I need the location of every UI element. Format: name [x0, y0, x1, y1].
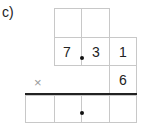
answer-cell-1[interactable] — [25, 95, 55, 123]
problem-label: c) — [2, 4, 14, 20]
multiply-operator: × — [34, 75, 42, 90]
carry-cell-1[interactable] — [54, 8, 82, 38]
answer-cell-2[interactable] — [54, 95, 82, 123]
answer-cell-4[interactable] — [109, 95, 137, 123]
multiplicand-digit-3: 1 — [116, 44, 130, 60]
multiplicand-digit-2: 3 — [89, 44, 103, 60]
carry-cell-2[interactable] — [81, 8, 110, 38]
multiplier-digit: 6 — [116, 72, 130, 88]
answer-decimal-point — [80, 111, 84, 115]
decimal-point — [80, 56, 84, 60]
multiplicand-digit-1: 7 — [60, 44, 74, 60]
answer-cell-3[interactable] — [81, 95, 110, 123]
